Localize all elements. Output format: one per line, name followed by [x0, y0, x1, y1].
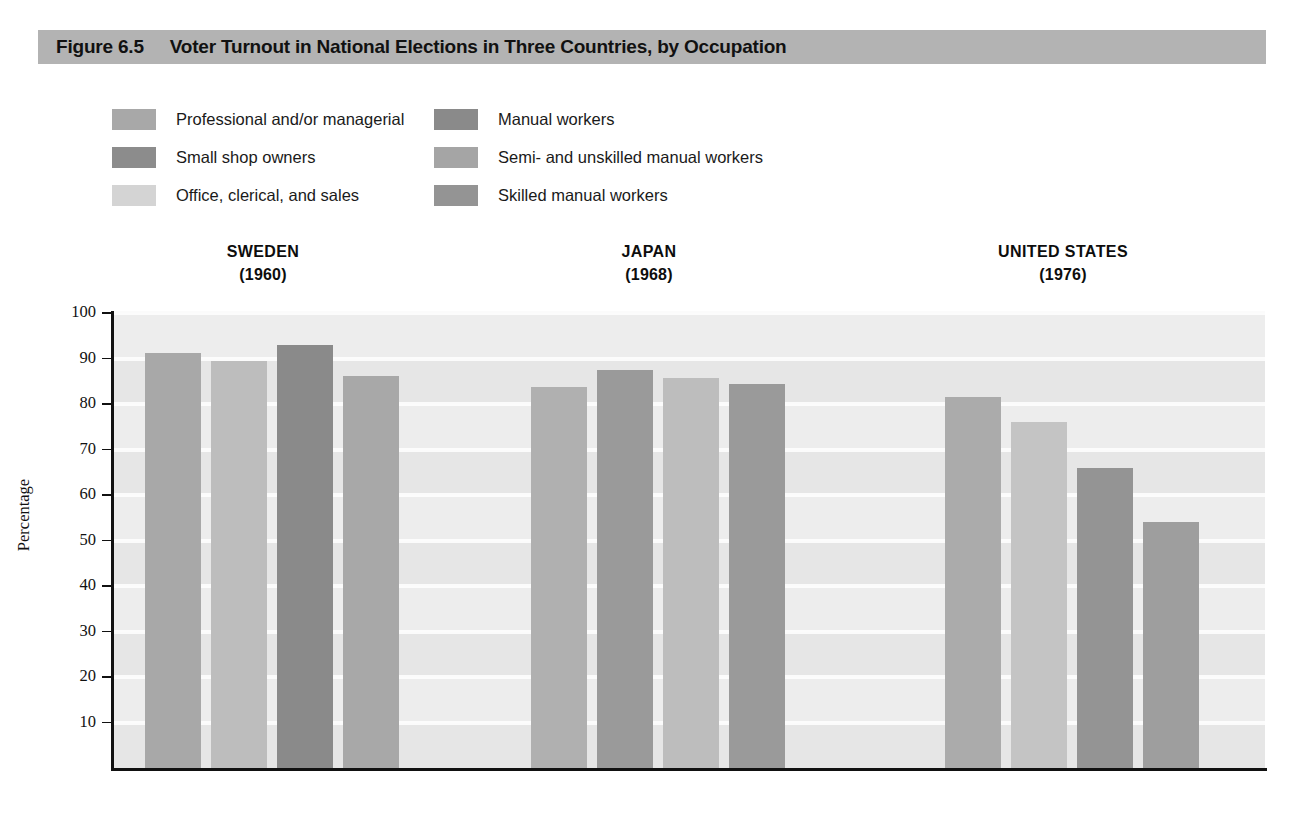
legend-item-label: Semi- and unskilled manual workers	[498, 148, 763, 167]
legend-swatch-icon	[112, 185, 156, 206]
legend-item: Office, clerical, and sales	[112, 176, 442, 214]
legend-item-label: Small shop owners	[176, 148, 315, 167]
legend-item: Skilled manual workers	[434, 176, 994, 214]
bar	[597, 370, 653, 768]
group-year-label: (1976)	[933, 263, 1193, 286]
y-axis-tick	[102, 312, 111, 314]
y-axis-tick-label: 80	[62, 393, 96, 413]
legend-item: Semi- and unskilled manual workers	[434, 138, 994, 176]
group-country-label: JAPAN	[519, 240, 779, 263]
legend-item: Small shop owners	[112, 138, 442, 176]
figure-title: Voter Turnout in National Elections in T…	[170, 36, 787, 58]
legend-swatch-icon	[434, 147, 478, 168]
bar	[145, 353, 201, 768]
group-country-label: UNITED STATES	[933, 240, 1193, 263]
y-axis-tick-label: 70	[62, 439, 96, 459]
legend-column-right: Manual workers Semi- and unskilled manua…	[434, 100, 994, 214]
y-axis-ticks: 100908070605040302010	[0, 0, 113, 826]
bar	[945, 397, 1001, 768]
legend-swatch-icon	[112, 147, 156, 168]
bar	[1077, 468, 1133, 768]
legend-item-label: Skilled manual workers	[498, 186, 668, 205]
figure-title-banner: Figure 6.5 Voter Turnout in National Ele…	[38, 30, 1266, 64]
group-headers: SWEDEN(1960)JAPAN(1968)UNITED STATES(197…	[113, 240, 1265, 292]
y-axis-tick	[102, 494, 111, 496]
x-axis-line	[111, 768, 1267, 771]
legend-item-label: Professional and/or managerial	[176, 110, 404, 129]
y-axis-tick	[102, 449, 111, 451]
y-axis-tick-label: 10	[62, 712, 96, 732]
chart-legend: Professional and/or managerial Small sho…	[112, 100, 1012, 218]
group-header: UNITED STATES(1976)	[933, 240, 1193, 286]
bar	[729, 384, 785, 768]
legend-swatch-icon	[434, 109, 478, 130]
y-axis-tick-label: 50	[62, 530, 96, 550]
y-axis-tick-label: 60	[62, 484, 96, 504]
bar	[1143, 522, 1199, 768]
legend-item: Manual workers	[434, 100, 994, 138]
bar	[531, 387, 587, 768]
bar	[277, 345, 333, 768]
legend-item-label: Office, clerical, and sales	[176, 186, 359, 205]
y-axis-tick-label: 40	[62, 575, 96, 595]
bar	[343, 376, 399, 768]
bar	[211, 361, 267, 768]
group-year-label: (1968)	[519, 263, 779, 286]
bar	[663, 378, 719, 768]
legend-item: Professional and/or managerial	[112, 100, 442, 138]
chart-plot-area	[113, 313, 1265, 768]
y-axis-tick	[102, 540, 111, 542]
y-axis-tick-label: 90	[62, 348, 96, 368]
y-axis-tick	[102, 403, 111, 405]
group-header: SWEDEN(1960)	[133, 240, 393, 286]
legend-swatch-icon	[112, 109, 156, 130]
y-axis-tick-label: 30	[62, 621, 96, 641]
y-axis-tick	[102, 358, 111, 360]
group-country-label: SWEDEN	[133, 240, 393, 263]
bars-layer	[113, 313, 1265, 768]
legend-swatch-icon	[434, 185, 478, 206]
group-year-label: (1960)	[133, 263, 393, 286]
y-axis-title: Percentage	[14, 455, 34, 575]
y-axis-tick	[102, 631, 111, 633]
y-axis-tick-label: 20	[62, 666, 96, 686]
y-axis-tick	[102, 722, 111, 724]
legend-item-label: Manual workers	[498, 110, 614, 129]
y-axis-tick-label: 100	[62, 302, 96, 322]
y-axis-tick	[102, 676, 111, 678]
y-axis-tick	[102, 585, 111, 587]
group-header: JAPAN(1968)	[519, 240, 779, 286]
legend-column-left: Professional and/or managerial Small sho…	[112, 100, 442, 214]
bar	[1011, 422, 1067, 768]
